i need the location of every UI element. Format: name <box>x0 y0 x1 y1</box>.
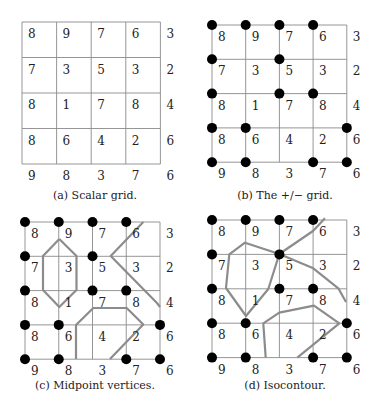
scalar-value-labels: 8976373532817848642698376 <box>31 227 174 378</box>
scalar-value-label: 7 <box>285 30 293 44</box>
scalar-value-label: 5 <box>97 63 105 77</box>
scalar-value-label: 8 <box>252 363 260 377</box>
positive-vertex-dot <box>207 123 217 133</box>
scalar-value-label: 8 <box>218 294 226 308</box>
positive-vertex-dot <box>155 320 165 330</box>
scalar-value-label: 7 <box>218 259 226 273</box>
scalar-value-label: 9 <box>252 225 260 239</box>
scalar-value-label: 2 <box>132 330 140 344</box>
scalar-value-label: 7 <box>99 296 107 310</box>
scalar-value-label: 8 <box>31 330 39 344</box>
scalar-value-label: 8 <box>31 227 39 241</box>
caption-b: (b) The +/− grid. <box>237 189 333 202</box>
scalar-value-label: 6 <box>166 134 174 148</box>
scalar-value-label: 8 <box>252 167 260 181</box>
scalar-value-label: 1 <box>252 99 260 113</box>
positive-vertex-dot <box>54 217 64 227</box>
scalar-value-label: 3 <box>252 64 260 78</box>
scalar-value-label: 2 <box>166 63 174 77</box>
scalar-value-label: 8 <box>63 169 71 183</box>
scalar-value-label: 4 <box>97 134 105 148</box>
scalar-value-label: 3 <box>132 63 140 77</box>
scalar-value-label: 7 <box>28 63 36 77</box>
scalar-value-label: 3 <box>166 227 174 241</box>
scalar-value-label: 3 <box>63 63 71 77</box>
scalar-value-labels: 8976373532817848642698376 <box>28 27 174 183</box>
scalar-value-label: 7 <box>97 98 105 112</box>
scalar-value-label: 6 <box>65 330 73 344</box>
scalar-value-label: 6 <box>252 328 260 342</box>
scalar-value-label: 9 <box>218 167 226 181</box>
positive-vertex-dot <box>207 215 217 225</box>
scalar-value-label: 2 <box>319 328 327 342</box>
positive-vertex-dot <box>121 354 131 364</box>
scalar-value-label: 8 <box>218 133 226 147</box>
scalar-value-label: 6 <box>319 30 327 44</box>
scalar-value-label: 9 <box>252 30 260 44</box>
positive-vertex-dot <box>207 157 217 167</box>
scalar-value-label: 2 <box>353 259 361 273</box>
scalar-value-label: 7 <box>218 64 226 78</box>
scalar-value-label: 7 <box>285 225 293 239</box>
scalar-value-label: 8 <box>218 328 226 342</box>
scalar-value-label: 3 <box>132 261 140 275</box>
positive-vertex-dot <box>241 353 251 363</box>
scalar-value-label: 5 <box>99 261 107 275</box>
scalar-value-label: 6 <box>353 133 361 147</box>
scalar-value-label: 5 <box>285 259 293 273</box>
scalar-value-label: 2 <box>166 261 174 275</box>
positive-vertex-dot <box>342 353 352 363</box>
scalar-value-label: 6 <box>353 328 361 342</box>
scalar-value-label: 2 <box>353 64 361 78</box>
scalar-value-label: 6 <box>132 27 140 41</box>
scalar-value-label: 8 <box>65 364 73 378</box>
positive-vertex-dot <box>121 286 131 296</box>
caption-c: (c) Midpoint vertices. <box>35 379 155 392</box>
scalar-value-label: 8 <box>319 99 327 113</box>
positive-vertex-dot <box>155 354 165 364</box>
positive-vertex-dot <box>308 89 318 99</box>
panel-plus-minus-grid: 8976373532817848642698376 (b) The +/− gr… <box>207 20 361 202</box>
positive-vertex-dot <box>121 217 131 227</box>
scalar-value-label: 4 <box>166 296 174 310</box>
scalar-value-label: 6 <box>63 134 71 148</box>
positive-vertex-dot <box>20 251 30 261</box>
positive-vertex-dot <box>207 54 217 64</box>
scalar-value-label: 1 <box>252 294 260 308</box>
caption-a: (a) Scalar grid. <box>53 189 137 202</box>
scalar-value-label: 4 <box>285 328 293 342</box>
positive-vertex-dot <box>207 249 217 259</box>
scalar-value-label: 3 <box>319 64 327 78</box>
positive-vertex-dot <box>308 284 318 294</box>
scalar-value-label: 3 <box>353 30 361 44</box>
scalar-value-label: 7 <box>319 167 327 181</box>
positive-vertex-dot <box>274 89 284 99</box>
positive-vertex-dot <box>308 353 318 363</box>
scalar-value-label: 8 <box>218 225 226 239</box>
scalar-value-label: 3 <box>319 259 327 273</box>
scalar-value-label: 6 <box>353 167 361 181</box>
scalar-value-label: 5 <box>285 64 293 78</box>
positive-vertex-dot <box>241 157 251 167</box>
marching-squares-figure: 8976373532817848642698376 (a) Scalar gri… <box>0 0 377 409</box>
caption-d: (d) Isocontour. <box>244 379 325 392</box>
positive-vertex-dot <box>342 123 352 133</box>
scalar-value-label: 8 <box>28 134 36 148</box>
positive-vertex-dot <box>241 215 251 225</box>
scalar-value-label: 3 <box>285 167 293 181</box>
scalar-value-label: 9 <box>65 227 73 241</box>
scalar-value-label: 6 <box>166 169 174 183</box>
positive-vertex-dot <box>308 20 318 30</box>
scalar-value-label: 6 <box>353 363 361 377</box>
scalar-value-label: 8 <box>132 296 140 310</box>
positive-vertex-dot <box>20 286 30 296</box>
scalar-value-label: 1 <box>63 98 71 112</box>
scalar-value-label: 4 <box>353 99 361 113</box>
scalar-value-label: 7 <box>132 364 140 378</box>
positive-vertex-dot <box>54 354 64 364</box>
scalar-value-label: 6 <box>132 227 140 241</box>
scalar-value-label: 7 <box>31 261 39 275</box>
scalar-value-label: 4 <box>285 133 293 147</box>
positive-vertex-dot <box>274 20 284 30</box>
isocontour-segment <box>263 306 339 358</box>
